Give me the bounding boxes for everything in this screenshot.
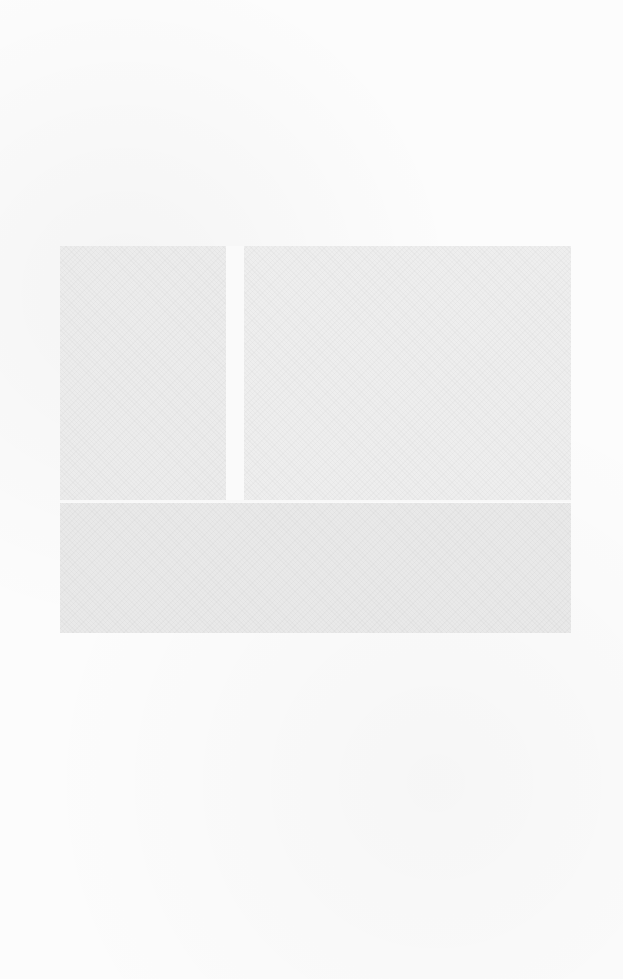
- horizontal-divider: [60, 500, 571, 502]
- gray-region-left: [60, 246, 226, 500]
- vertical-gap: [226, 246, 244, 500]
- scanned-page: [0, 0, 623, 979]
- gray-region-bottom: [60, 503, 571, 633]
- gray-region-right: [244, 246, 571, 500]
